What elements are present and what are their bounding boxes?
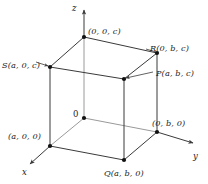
vertex-label-point-R: R(0, b, c) xyxy=(150,44,189,52)
vertex-label-point-S: S(a, 0, c) xyxy=(2,61,40,69)
vertex-label-point-Q: Q(a, b, 0) xyxy=(104,169,144,177)
vertex-label-x-intercept: (a, 0, 0) xyxy=(8,132,41,140)
bottom-face-front-edges xyxy=(50,132,157,160)
vertex-label-point-P: P(a, b, c) xyxy=(156,69,194,77)
dot-point-P xyxy=(122,77,126,81)
edge-topback-R xyxy=(84,37,157,53)
vertex-label-top-back: (0, 0, c) xyxy=(88,27,121,35)
y-axis-line xyxy=(157,132,193,143)
vertical-edges xyxy=(50,53,157,160)
x-axis-label: x xyxy=(22,168,27,177)
dot-point-S xyxy=(48,65,52,69)
vertex-label-y-intercept: (0, b, 0) xyxy=(152,119,185,127)
edge-origin-ybzero xyxy=(84,118,157,132)
leader-P xyxy=(126,72,153,78)
z-axis-label: z xyxy=(72,4,76,13)
edge-origin-axzero xyxy=(50,118,84,146)
x-axis-line xyxy=(30,146,50,164)
y-axis-label: y xyxy=(193,152,198,161)
dot-x-intercept xyxy=(48,144,52,148)
edge-S-topback xyxy=(50,37,84,67)
bottom-face-edges xyxy=(50,118,157,146)
rectangular-box-figure: z y x (0, 0, c) R(0, b, c) S(a, 0, c) P(… xyxy=(0,0,208,184)
dot-top-back xyxy=(82,35,86,39)
dot-y-intercept xyxy=(155,130,159,134)
edge-ybzero-Q xyxy=(124,132,157,160)
edge-Q-axzero xyxy=(50,146,124,160)
edge-P-S xyxy=(50,67,124,79)
dot-origin xyxy=(82,116,86,120)
vertex-label-origin: 0 xyxy=(73,110,78,119)
dot-point-Q xyxy=(122,158,126,162)
top-face-edges xyxy=(50,37,157,79)
